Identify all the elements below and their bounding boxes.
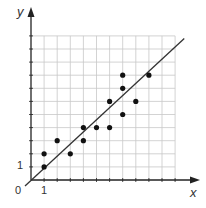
trend-line: [25, 39, 184, 186]
y-tick-label-1: 1: [17, 159, 23, 171]
data-point: [81, 138, 86, 143]
axes: [28, 7, 201, 184]
scatter-chart: [0, 0, 206, 208]
data-point: [133, 99, 138, 104]
data-point: [68, 151, 73, 156]
data-point: [120, 86, 125, 91]
data-point: [81, 125, 86, 130]
data-point: [107, 99, 112, 104]
data-point: [146, 73, 151, 78]
x-tick-label-1: 1: [41, 184, 47, 196]
origin-label: 0: [15, 184, 21, 196]
data-point: [42, 164, 47, 169]
data-point: [120, 112, 125, 117]
y-axis-label: y: [17, 4, 24, 19]
data-point: [94, 125, 99, 130]
data-point: [107, 125, 112, 130]
grid-lines: [31, 36, 175, 180]
data-point: [120, 73, 125, 78]
data-point: [42, 151, 47, 156]
data-point: [55, 138, 60, 143]
x-axis-label: x: [190, 185, 197, 200]
